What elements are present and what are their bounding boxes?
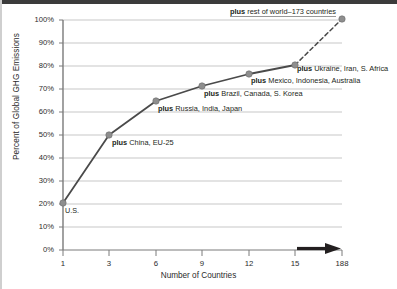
- annotation-ukraine: plus Ukraine, Iran, S. Africa: [297, 64, 388, 73]
- y-tick-label-60: 60%: [18, 108, 54, 116]
- y-tick-label-80: 80%: [18, 62, 54, 70]
- plot-area: [0, 0, 397, 289]
- y-tick-label-100: 100%: [18, 16, 54, 24]
- y-axis-title: Percent of Global GHG Emissions: [12, 17, 21, 177]
- y-tick-label-50: 50%: [18, 131, 54, 139]
- annotation-rest-of-world: plus rest of world–173 countries: [230, 7, 336, 16]
- x-tick-label-12: 12: [234, 259, 264, 268]
- annotation-china-prefix: plus: [112, 138, 127, 147]
- x-tick-marks: [63, 250, 342, 256]
- x-tick-label-15: 15: [280, 259, 310, 268]
- annotation-rest-text: rest of world–173 countries: [247, 7, 336, 16]
- annotation-rest-prefix: plus: [230, 7, 245, 16]
- annotation-russia: plus Russia, India, Japan: [158, 104, 242, 113]
- annotation-mexico-text: Mexico, Indonesia, Australia: [268, 76, 360, 85]
- y-tick-label-0: 0%: [18, 246, 54, 254]
- annotation-brazil-text: Brazil, Canada, S. Korea: [221, 89, 302, 98]
- annotation-mexico: plus Mexico, Indonesia, Australia: [251, 76, 360, 85]
- y-tick-label-40: 40%: [18, 154, 54, 162]
- annotation-china: plus China, EU-25: [112, 138, 174, 147]
- annotation-china-text: China, EU-25: [129, 138, 173, 147]
- y-tick-label-30: 30%: [18, 177, 54, 185]
- axis-break-arrow: [297, 243, 341, 254]
- data-point-188: [339, 16, 345, 22]
- y-tick-label-90: 90%: [18, 39, 54, 47]
- x-tick-label-1: 1: [48, 259, 78, 268]
- y-tick-label-20: 20%: [18, 200, 54, 208]
- gridlines: [63, 20, 342, 227]
- annotation-brazil: plus Brazil, Canada, S. Korea: [204, 89, 303, 98]
- annotation-mexico-prefix: plus: [251, 76, 266, 85]
- annotation-ukraine-prefix: plus: [297, 64, 312, 73]
- x-tick-label-3: 3: [94, 259, 124, 268]
- x-tick-label-9: 9: [187, 259, 217, 268]
- annotation-brazil-prefix: plus: [204, 89, 219, 98]
- annotation-russia-prefix: plus: [158, 104, 173, 113]
- chart-figure: 100% 90% 80% 70% 60% 50% 40% 30% 20% 10%…: [0, 0, 397, 289]
- annotation-ukraine-text: Ukraine, Iran, S. Africa: [314, 64, 388, 73]
- data-line-solid: [63, 65, 295, 203]
- x-tick-label-6: 6: [141, 259, 171, 268]
- data-line-dashed: [295, 19, 342, 65]
- annotation-us: U.S.: [65, 206, 79, 215]
- annotation-russia-text: Russia, India, Japan: [175, 104, 242, 113]
- y-tick-label-10: 10%: [18, 223, 54, 231]
- x-tick-label-188: 188: [327, 259, 357, 268]
- y-tick-label-70: 70%: [18, 85, 54, 93]
- x-axis-title: Number of Countries: [0, 271, 397, 280]
